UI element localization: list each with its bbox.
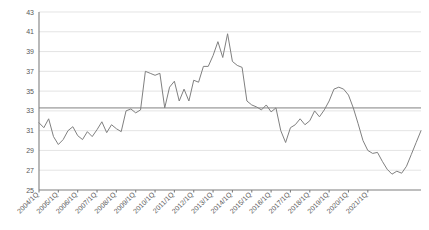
- y-axis-tick-label-31: 31: [26, 127, 34, 134]
- y-axis-tick-label-41: 41: [26, 28, 34, 35]
- data-series-line: [39, 34, 421, 174]
- chart-canvas: 252729313335373941432004/1Q2005/1Q2006/1…: [0, 0, 429, 230]
- y-axis-tick-label-35: 35: [26, 88, 34, 95]
- y-axis-tick-label-43: 43: [26, 9, 34, 16]
- y-axis-tick-label-33: 33: [26, 107, 34, 114]
- x-axis-tick-label-2021/1Q: 2021/1Q: [345, 190, 370, 215]
- y-axis-tick-label-37: 37: [26, 68, 34, 75]
- y-axis-tick-label-29: 29: [26, 147, 34, 154]
- line-chart: 252729313335373941432004/1Q2005/1Q2006/1…: [0, 0, 429, 230]
- y-axis-tick-label-39: 39: [26, 48, 34, 55]
- y-axis-tick-label-27: 27: [26, 167, 34, 174]
